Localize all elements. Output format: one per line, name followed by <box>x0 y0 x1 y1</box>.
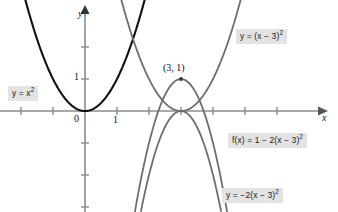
curve-2 <box>135 79 228 212</box>
plot-canvas <box>0 0 338 212</box>
curve-label-y-equals-negative-2-x-minus-3-squared: y = −2(x − 3)2 <box>222 188 283 203</box>
x-axis-tick-label-1: 1 <box>113 114 118 125</box>
point-markers <box>179 77 183 81</box>
axis-ticks <box>21 47 277 207</box>
y-axis-tick-label-1: 1 <box>74 71 79 82</box>
curve-label-f-of-x: f(x) = 1 − 2(x − 3)2 <box>228 133 307 148</box>
vertex-point-marker <box>179 77 183 81</box>
y-axis-label: y <box>78 8 82 19</box>
curve-label-y-equals-x-minus-3-squared: y = (x − 3)2 <box>236 29 287 44</box>
curves-group <box>7 0 260 212</box>
curve-label-y-equals-x-squared: y = x2 <box>8 86 38 101</box>
origin-label: 0 <box>74 113 79 124</box>
parabola-figure: y = x2 y = (x − 3)2 f(x) = 1 − 2(x − 3)2… <box>0 0 338 212</box>
vertex-point-label: (3, 1) <box>163 62 185 73</box>
x-axis-label: x <box>322 112 326 123</box>
